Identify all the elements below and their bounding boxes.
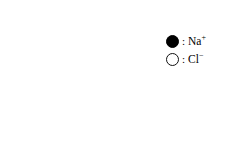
legend-item-chloride: : Cl− xyxy=(166,50,227,68)
crystal-lattice-diagram xyxy=(0,0,165,150)
legend: : Na+ : Cl− xyxy=(166,32,227,76)
filled-circle-icon xyxy=(166,35,179,48)
legend-label-chloride: Cl− xyxy=(188,53,203,66)
legend-separator-sodium: : xyxy=(179,35,188,48)
legend-label-sodium-charge: + xyxy=(201,33,206,42)
legend-item-sodium: : Na+ xyxy=(166,32,227,50)
nacl-lattice-figure-root: : Na+ : Cl− xyxy=(0,0,227,150)
legend-label-chloride-text: Cl xyxy=(188,53,199,65)
lattice-svg-canvas xyxy=(0,0,165,150)
legend-label-sodium-text: Na xyxy=(188,35,201,47)
hollow-circle-icon xyxy=(166,53,179,66)
legend-label-chloride-charge: − xyxy=(199,51,204,60)
legend-separator-chloride: : xyxy=(179,53,188,66)
legend-label-sodium: Na+ xyxy=(188,35,206,48)
